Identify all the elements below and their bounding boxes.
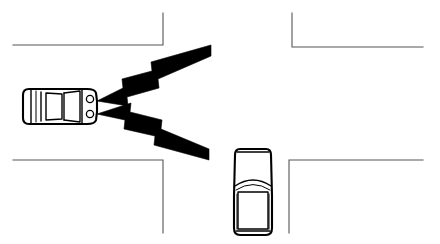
transmitting-car <box>23 89 97 124</box>
approaching-car <box>234 149 272 235</box>
diagram-canvas <box>0 0 440 244</box>
transmitting-car-headlamp-lower <box>86 110 93 117</box>
transmitting-car-headlamp-upper <box>86 95 93 102</box>
intersection-diagram <box>0 0 440 244</box>
